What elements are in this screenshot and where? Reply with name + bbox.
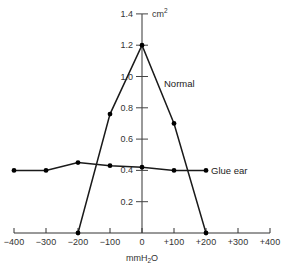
y-tick-label: 0.2	[120, 197, 133, 207]
data-point	[172, 121, 177, 126]
x-tick-label: −200	[68, 237, 88, 247]
data-point	[108, 112, 113, 117]
data-point	[204, 231, 209, 236]
y-tick-label: 1.2	[120, 40, 133, 50]
x-tick-label: +200	[196, 237, 216, 247]
y-tick-label: 0.8	[120, 103, 133, 113]
y-unit-text: cm	[152, 9, 164, 19]
x-tick-label: 0	[139, 237, 144, 247]
y-axis-unit-label: cm2	[152, 7, 168, 19]
y-tick-label: 0.6	[120, 134, 133, 144]
x-tick-label: −100	[100, 237, 120, 247]
x-tick-label: +400	[260, 237, 280, 247]
series-label-normal: Normal	[164, 78, 195, 89]
x-tick-label: +300	[228, 237, 248, 247]
data-point	[12, 168, 17, 173]
data-point	[140, 165, 145, 170]
series-label-glue-ear: Glue ear	[211, 165, 247, 176]
tympanogram-chart: −400−300−200−1000+100+200+300+4000.20.40…	[0, 0, 285, 269]
data-point	[76, 160, 81, 165]
x-tick-label: −300	[36, 237, 56, 247]
data-point	[108, 163, 113, 168]
data-point	[204, 168, 209, 173]
data-point	[76, 231, 81, 236]
data-point	[172, 168, 177, 173]
y-unit-superscript: 2	[164, 7, 168, 14]
series-group	[12, 43, 209, 236]
x-tick-label: −400	[4, 237, 24, 247]
x-axis-label: mmH2O	[126, 253, 158, 264]
y-tick-label: 1.4	[120, 9, 133, 19]
data-point	[140, 43, 145, 48]
data-point	[44, 168, 49, 173]
x-tick-label: +100	[164, 237, 184, 247]
x-label-part: O	[151, 253, 158, 263]
x-label-part: mmH	[126, 253, 148, 263]
